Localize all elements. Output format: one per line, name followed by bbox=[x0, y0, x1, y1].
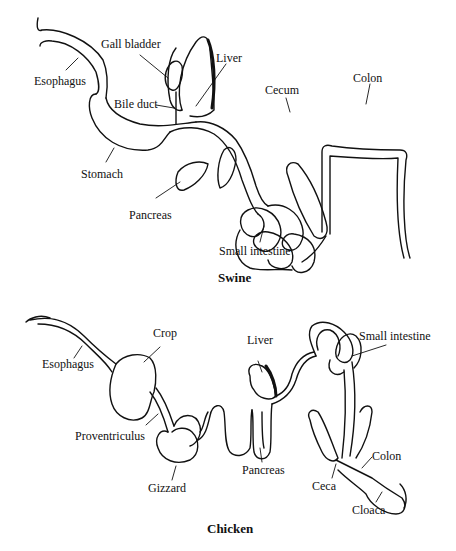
label-swine-colon: Colon bbox=[353, 72, 382, 85]
label-chicken-esophagus: Esophagus bbox=[42, 358, 94, 371]
label-swine-cecum: Cecum bbox=[265, 84, 299, 97]
chicken-tract bbox=[26, 316, 406, 514]
label-swine-small-intestine: Small intestine bbox=[219, 245, 291, 258]
label-swine-bile-duct: Bile duct bbox=[114, 98, 158, 111]
label-swine-esophagus: Esophagus bbox=[34, 75, 86, 88]
label-chicken-liver: Liver bbox=[247, 334, 273, 347]
label-chicken-crop: Crop bbox=[153, 327, 177, 340]
label-chicken-small-intestine: Small intestine bbox=[359, 330, 431, 343]
label-chicken-proventriculus: Proventriculus bbox=[75, 430, 145, 443]
label-swine-stomach: Stomach bbox=[81, 168, 123, 181]
label-chicken-cloaca: Cloaca bbox=[352, 504, 385, 517]
label-chicken-pancreas: Pancreas bbox=[242, 464, 285, 477]
label-chicken-colon: Colon bbox=[372, 450, 401, 463]
caption-chicken: Chicken bbox=[207, 521, 253, 537]
label-chicken-gizzard: Gizzard bbox=[148, 482, 186, 495]
label-chicken-ceca: Ceca bbox=[312, 480, 336, 493]
label-swine-liver: Liver bbox=[216, 52, 242, 65]
label-swine-gall-bladder: Gall bladder bbox=[101, 38, 161, 51]
label-swine-pancreas: Pancreas bbox=[129, 209, 172, 222]
caption-swine: Swine bbox=[218, 270, 251, 286]
